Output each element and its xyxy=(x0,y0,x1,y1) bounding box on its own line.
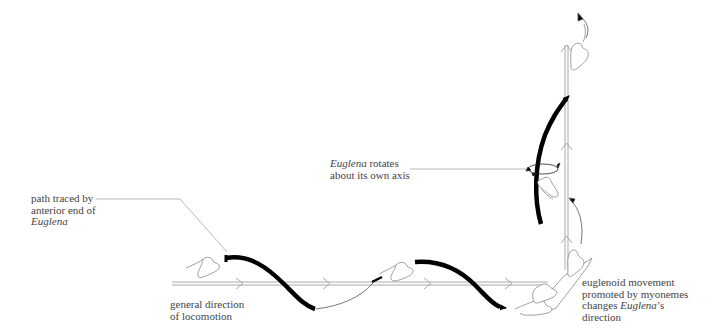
label-euglenoid-line1: euglenoid movement xyxy=(582,277,688,289)
label-euglenoid-line4: direction xyxy=(582,312,688,324)
euglena-cell-1 xyxy=(186,257,219,277)
leader-lines xyxy=(96,169,527,252)
label-general-direction-line2: of locomotion xyxy=(170,311,244,323)
label-general-direction-line1: general direction xyxy=(170,299,244,311)
label-rotates-rest: rotates xyxy=(367,157,399,169)
euglena-cell-2 xyxy=(379,262,413,280)
rotation-arrows-icon xyxy=(526,163,560,176)
label-euglenoid-line3-italic: Euglena xyxy=(620,299,657,311)
euglena-cell-rotating xyxy=(538,177,558,199)
label-path-traced: path traced by anterior end of Euglena xyxy=(31,193,96,228)
euglena-cell-top xyxy=(571,24,589,70)
label-rotates: Euglena rotates about its own axis xyxy=(330,158,410,181)
label-euglenoid-line3-post: ’s xyxy=(657,299,664,311)
label-rotates-line2: about its own axis xyxy=(330,170,410,182)
label-euglenoid-line3-pre: changes xyxy=(582,299,620,311)
label-path-traced-line1: path traced by xyxy=(31,193,96,205)
label-rotates-italic: Euglena xyxy=(330,157,367,169)
label-euglenoid-movement: euglenoid movement promoted by myonemes … xyxy=(582,277,688,323)
label-general-direction: general direction of locomotion xyxy=(170,299,244,322)
horizontal-direction-line xyxy=(172,278,548,289)
vertical-direction-line xyxy=(561,45,572,270)
label-path-traced-line3: Euglena xyxy=(31,215,68,227)
euglena-cell-turn xyxy=(515,250,592,315)
